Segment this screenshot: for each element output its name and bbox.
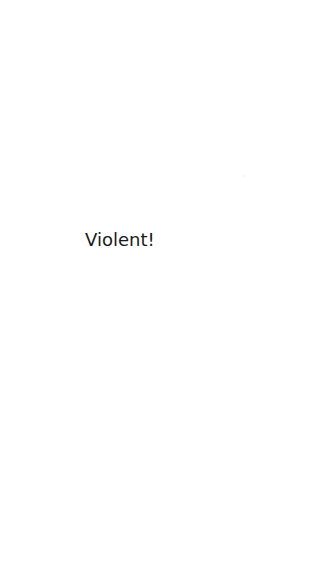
message-text: Violent! (85, 229, 155, 250)
speck (243, 175, 244, 177)
